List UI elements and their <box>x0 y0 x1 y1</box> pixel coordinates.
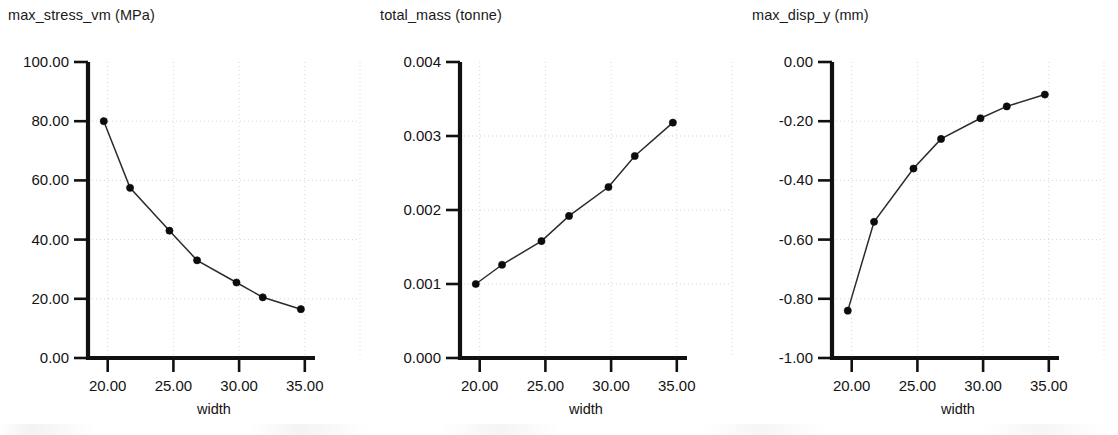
data-point <box>498 261 505 268</box>
plot-area: -1.00-0.80-0.60-0.40-0.200.0020.0025.003… <box>744 0 1116 435</box>
data-point <box>910 165 917 172</box>
data-point <box>193 257 200 264</box>
x-tick-label: 20.00 <box>89 377 127 394</box>
chart-panel-2: total_mass (tonne)0.0000.0010.0020.0030.… <box>372 0 744 435</box>
y-tick-label: 0.001 <box>403 275 441 292</box>
grid-lines <box>460 62 732 358</box>
x-axis-label: width <box>196 401 231 417</box>
x-axis-label: width <box>568 401 603 417</box>
data-point <box>977 115 984 122</box>
axis-spines <box>458 62 687 360</box>
grid-lines <box>832 62 1104 358</box>
y-tick-label: 100.00 <box>23 53 69 70</box>
y-tick-label: 0.00 <box>40 349 69 366</box>
plot-area: 0.0000.0010.0020.0030.00420.0025.0030.00… <box>372 0 744 435</box>
data-point <box>233 279 240 286</box>
x-tick-label: 35.00 <box>1030 377 1068 394</box>
plot-area: 0.0020.0040.0060.0080.00100.0020.0025.00… <box>0 0 372 435</box>
y-tick-label: 0.002 <box>403 201 441 218</box>
data-point <box>166 227 173 234</box>
x-axis-ticks: 20.0025.0030.0035.00 <box>89 358 324 394</box>
y-tick-label: 0.00 <box>784 53 813 70</box>
y-tick-label: 40.00 <box>31 231 69 248</box>
series-line <box>104 121 301 309</box>
y-axis-ticks: 0.0000.0010.0020.0030.004 <box>403 53 460 366</box>
data-point <box>1041 91 1048 98</box>
x-tick-label: 20.00 <box>461 377 499 394</box>
y-tick-label: -0.60 <box>779 231 813 248</box>
x-tick-label: 25.00 <box>899 377 937 394</box>
x-tick-label: 30.00 <box>964 377 1002 394</box>
data-point <box>126 184 133 191</box>
axis-spines <box>830 62 1059 360</box>
data-point <box>472 280 479 287</box>
x-tick-label: 35.00 <box>286 377 324 394</box>
y-tick-label: 0.000 <box>403 349 441 366</box>
data-point <box>870 218 877 225</box>
data-point <box>565 212 572 219</box>
x-tick-label: 25.00 <box>527 377 565 394</box>
y-tick-label: 0.003 <box>403 127 441 144</box>
x-axis-ticks: 20.0025.0030.0035.00 <box>833 358 1068 394</box>
y-axis-ticks: 0.0020.0040.0060.0080.00100.00 <box>23 53 88 366</box>
y-tick-label: -0.40 <box>779 171 813 188</box>
series-line <box>476 123 673 284</box>
y-axis-ticks: -1.00-0.80-0.60-0.40-0.200.00 <box>779 53 832 366</box>
x-axis-ticks: 20.0025.0030.0035.00 <box>461 358 696 394</box>
series-markers <box>100 118 304 313</box>
axis-spines <box>86 62 315 360</box>
y-tick-label: -0.20 <box>779 112 813 129</box>
x-tick-label: 30.00 <box>592 377 630 394</box>
x-tick-label: 20.00 <box>833 377 871 394</box>
x-tick-label: 25.00 <box>155 377 193 394</box>
grid-lines <box>88 62 360 358</box>
chart-panel-3: max_disp_y (mm)-1.00-0.80-0.60-0.40-0.20… <box>744 0 1116 435</box>
data-point <box>844 307 851 314</box>
charts-row: max_stress_vm (MPa)0.0020.0040.0060.0080… <box>0 0 1118 435</box>
data-point <box>100 118 107 125</box>
data-point <box>297 306 304 313</box>
series-markers <box>472 119 676 288</box>
x-tick-label: 35.00 <box>658 377 696 394</box>
x-tick-label: 30.00 <box>220 377 258 394</box>
y-tick-label: -0.80 <box>779 290 813 307</box>
y-tick-label: -1.00 <box>779 349 813 366</box>
data-point <box>538 237 545 244</box>
data-point <box>1003 103 1010 110</box>
data-point <box>937 135 944 142</box>
x-axis-label: width <box>940 401 975 417</box>
data-point <box>669 119 676 126</box>
data-point <box>631 152 638 159</box>
y-tick-label: 60.00 <box>31 171 69 188</box>
series-line <box>848 95 1045 311</box>
series-markers <box>844 91 1048 314</box>
y-tick-label: 0.004 <box>403 53 441 70</box>
data-point <box>605 183 612 190</box>
y-tick-label: 20.00 <box>31 290 69 307</box>
y-tick-label: 80.00 <box>31 112 69 129</box>
data-point <box>259 294 266 301</box>
chart-panel-1: max_stress_vm (MPa)0.0020.0040.0060.0080… <box>0 0 372 435</box>
